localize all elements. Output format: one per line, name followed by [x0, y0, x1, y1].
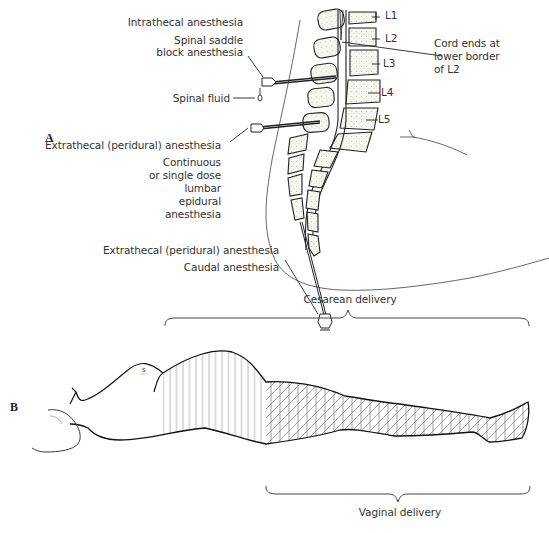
vaginal-brace — [266, 486, 530, 502]
reclining-figure: s — [32, 351, 529, 452]
label-continuous: Continuous — [100, 156, 221, 169]
back-skin-outline — [266, 20, 549, 290]
svg-text:s: s — [142, 366, 146, 374]
spinous-processes — [302, 8, 345, 133]
label-or-single-dose: or single dose — [100, 169, 221, 182]
label-cesarean-delivery: Cesarean delivery — [290, 293, 410, 306]
spinal-fluid-drop — [258, 88, 262, 101]
label-lower-border: lower border — [434, 50, 500, 63]
sacrum — [288, 134, 338, 256]
label-epidural: epidural — [100, 195, 221, 208]
vertebra-label-l3: L3 — [383, 57, 395, 70]
label-block-anesthesia: block anesthesia — [100, 46, 243, 59]
vertebra-label-l5: L5 — [378, 113, 390, 126]
label-extrathecal-peridural-1: Extrathecal (peridural) anesthesia — [40, 139, 221, 152]
label-lumbar: lumbar — [100, 182, 221, 195]
label-of-l2: of L2 — [434, 63, 460, 76]
panel-letter-b: B — [10, 400, 18, 415]
label-caudal-anesthesia: Caudal anesthesia — [100, 261, 279, 274]
vertebra-label-l2: L2 — [385, 32, 397, 45]
vertebra-label-l1: L1 — [385, 9, 397, 22]
needles — [259, 76, 336, 315]
vertebra-label-l4: L4 — [381, 86, 393, 99]
label-extrathecal-peridural-2: Extrathecal (peridural) anesthesia — [100, 244, 279, 257]
cesarean-brace — [165, 310, 529, 326]
buttock-curve — [400, 130, 467, 155]
label-anesthesia: anesthesia — [100, 208, 221, 221]
label-spinal-fluid: Spinal fluid — [100, 92, 230, 105]
label-vaginal-delivery: Vaginal delivery — [340, 506, 460, 519]
label-intrathecal-anesthesia: Intrathecal anesthesia — [100, 16, 243, 29]
label-cord-ends: Cord ends at — [434, 37, 500, 50]
